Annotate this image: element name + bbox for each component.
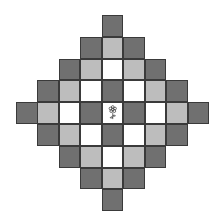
board-cell[interactable] xyxy=(145,124,167,146)
board-cell[interactable] xyxy=(80,80,102,102)
board-cell[interactable] xyxy=(166,124,188,146)
board-cell[interactable] xyxy=(145,102,167,124)
board-cell[interactable] xyxy=(123,124,145,146)
board-cell[interactable] xyxy=(59,146,81,168)
board-cell[interactable] xyxy=(102,80,124,102)
board-cell[interactable] xyxy=(102,37,124,59)
board-cell[interactable] xyxy=(123,80,145,102)
board-cell[interactable] xyxy=(145,146,167,168)
board-cell[interactable] xyxy=(123,102,145,124)
board-cell[interactable] xyxy=(102,189,124,211)
board-cell[interactable] xyxy=(166,102,188,124)
board-cell[interactable] xyxy=(80,37,102,59)
board-cell[interactable] xyxy=(102,59,124,81)
board-cell[interactable] xyxy=(145,80,167,102)
diamond-board xyxy=(16,15,209,211)
board-cell[interactable] xyxy=(123,59,145,81)
flower-icon xyxy=(103,103,123,123)
board-cell[interactable] xyxy=(37,80,59,102)
board-cell[interactable] xyxy=(59,124,81,146)
board-cell[interactable] xyxy=(37,124,59,146)
board-cell[interactable] xyxy=(80,59,102,81)
board-cell[interactable] xyxy=(166,80,188,102)
board-cell[interactable] xyxy=(37,102,59,124)
board-cell[interactable] xyxy=(102,124,124,146)
center-cell[interactable] xyxy=(102,102,124,124)
board-cell[interactable] xyxy=(59,59,81,81)
board-cell[interactable] xyxy=(102,146,124,168)
board-cell[interactable] xyxy=(188,102,210,124)
board-cell[interactable] xyxy=(80,146,102,168)
board-cell[interactable] xyxy=(102,15,124,37)
board-cell[interactable] xyxy=(145,59,167,81)
board-cell[interactable] xyxy=(123,168,145,190)
board-cell[interactable] xyxy=(102,168,124,190)
board-cell[interactable] xyxy=(123,37,145,59)
board-cell[interactable] xyxy=(80,168,102,190)
board-cell[interactable] xyxy=(123,146,145,168)
board-cell[interactable] xyxy=(59,80,81,102)
board-cell[interactable] xyxy=(16,102,38,124)
board-cell[interactable] xyxy=(59,102,81,124)
board-cell[interactable] xyxy=(80,102,102,124)
board-cell[interactable] xyxy=(80,124,102,146)
